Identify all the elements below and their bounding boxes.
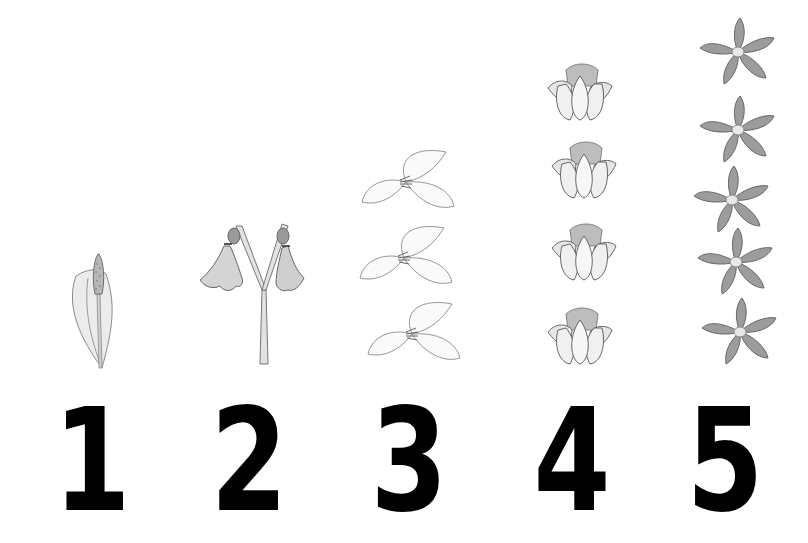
flower-illustration-5 <box>686 14 786 378</box>
numeral-5: 5 <box>682 398 768 523</box>
flower-illustration-4 <box>534 58 630 374</box>
flower-illustration-1 <box>66 248 122 372</box>
numeral-4: 4 <box>529 398 615 523</box>
flower-illustration-2 <box>196 220 322 364</box>
flower-counting-chart: 1 2 3 4 5 <box>0 0 808 543</box>
numeral-3: 3 <box>366 398 452 523</box>
numeral-2: 2 <box>206 398 292 523</box>
flower-illustration-3 <box>358 138 462 372</box>
numeral-1: 1 <box>49 398 135 523</box>
